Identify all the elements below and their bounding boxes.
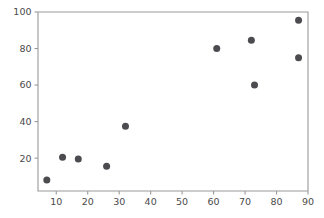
- x-tick-label: 40: [145, 196, 157, 207]
- x-tick-label: 10: [50, 196, 62, 207]
- data-point: [59, 154, 66, 161]
- scatter-plot-figure: 102030405060708090 20406080100: [0, 0, 324, 218]
- x-tick-label: 80: [270, 196, 282, 207]
- x-tick-label: 90: [302, 196, 314, 207]
- plot-canvas: 102030405060708090 20406080100: [0, 0, 324, 218]
- x-tick-label: 70: [239, 196, 251, 207]
- data-point: [213, 45, 220, 52]
- x-tick-label: 60: [208, 196, 220, 207]
- y-tick-label: 40: [19, 116, 31, 127]
- y-tick-label: 100: [13, 6, 31, 17]
- x-tick-label: 30: [113, 196, 125, 207]
- data-point: [43, 177, 50, 184]
- y-tick-label: 60: [19, 79, 31, 90]
- data-point: [251, 82, 258, 89]
- x-tick-label: 50: [176, 196, 188, 207]
- figure-background: [0, 0, 324, 218]
- data-point: [248, 37, 255, 44]
- data-point: [103, 163, 110, 170]
- y-tick-label: 80: [19, 43, 31, 54]
- data-point: [122, 123, 129, 130]
- data-point: [75, 156, 82, 163]
- x-tick-label: 20: [82, 196, 94, 207]
- y-tick-label: 20: [19, 153, 31, 164]
- x-axis-tick-labels: 102030405060708090: [50, 196, 314, 207]
- data-point: [295, 17, 302, 24]
- data-point: [295, 54, 302, 61]
